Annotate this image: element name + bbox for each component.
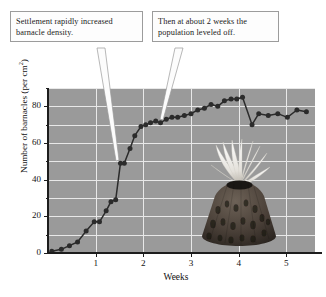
data-point	[143, 122, 148, 127]
callout-plateau-line1: Then at about 2 weeks the	[158, 16, 273, 27]
data-point	[67, 243, 72, 248]
data-point	[59, 247, 64, 252]
callout-plateau: Then at about 2 weeks the population lev…	[152, 11, 279, 42]
data-point	[104, 208, 109, 213]
x-axis-title-text: Weeks	[138, 272, 189, 282]
data-point	[175, 115, 180, 120]
data-point	[189, 111, 194, 116]
data-point	[266, 113, 271, 118]
data-point	[97, 219, 102, 224]
data-point	[92, 219, 97, 224]
y-tick-label-0: 0	[19, 247, 41, 257]
data-point	[84, 229, 89, 234]
data-point	[202, 106, 207, 111]
data-point	[275, 111, 280, 116]
y-axis-title-text: Number of barnacles (per cm	[19, 65, 29, 173]
data-point	[250, 122, 255, 127]
data-point	[195, 108, 200, 113]
callout-settlement-line1: Settlement rapidly increased	[16, 16, 137, 27]
data-point	[122, 161, 127, 166]
data-point	[138, 124, 143, 129]
y-axis-title-exponent: 2	[17, 62, 24, 65]
barnacle-shell	[202, 182, 276, 246]
data-point	[182, 113, 187, 118]
callout-settlement-line2: barnacle density.	[16, 27, 137, 38]
data-point	[256, 111, 261, 116]
x-axis-title: Weeks	[0, 272, 326, 282]
data-point	[229, 97, 234, 102]
barnacle-cirri	[211, 139, 270, 186]
data-point	[222, 98, 227, 103]
data-point	[240, 95, 245, 100]
data-point	[215, 104, 220, 109]
data-point	[128, 146, 133, 151]
data-point	[285, 115, 290, 120]
data-point	[75, 240, 80, 245]
data-point	[108, 199, 113, 204]
callout-settlement: Settlement rapidly increased barnacle de…	[10, 11, 143, 42]
callout-plateau-line2: population leveled off.	[158, 27, 273, 38]
data-point	[153, 119, 158, 124]
x-tick-label-5: 5	[278, 258, 294, 268]
figure-barnacle-density: Number of barnacles (per cm2) Weeks 0204…	[0, 0, 326, 297]
y-tick-label-40: 40	[19, 174, 41, 184]
data-point	[169, 115, 174, 120]
data-point	[148, 120, 153, 125]
data-point	[132, 133, 137, 138]
x-tick-label-2: 2	[135, 258, 151, 268]
data-point	[209, 102, 214, 107]
y-tick-label-80: 80	[19, 100, 41, 110]
data-point	[158, 120, 163, 125]
y-axis-title-suffix: )	[19, 59, 29, 62]
x-tick-label-1: 1	[88, 258, 104, 268]
data-point	[164, 117, 169, 122]
x-tick-label-3: 3	[183, 258, 199, 268]
data-point	[294, 108, 299, 113]
data-point	[234, 97, 239, 102]
x-tick-label-4: 4	[231, 258, 247, 268]
barnacle-photo	[196, 132, 282, 248]
y-tick-label-20: 20	[19, 210, 41, 220]
data-point	[113, 197, 118, 202]
y-tick-label-60: 60	[19, 137, 41, 147]
data-point	[304, 109, 309, 114]
